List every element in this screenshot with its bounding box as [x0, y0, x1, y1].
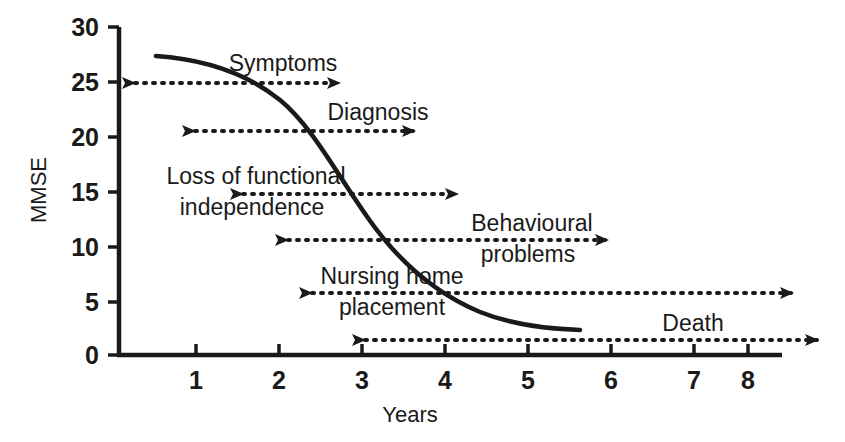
label-loss-of-functional-independence-line2: independence [180, 194, 325, 220]
x-tick-label-5: 5 [521, 366, 535, 394]
y-axis-tick-labels: 30 25 20 15 10 5 0 [71, 13, 99, 369]
x-tick-label-6: 6 [604, 366, 618, 394]
x-axis-tick-labels: 1 2 3 4 5 6 7 8 [189, 366, 755, 394]
label-death: Death [662, 310, 723, 336]
chart-figure: 30 25 20 15 10 5 0 MMSE 1 2 3 4 5 6 [0, 0, 845, 442]
label-nursing-home-placement-line1: Nursing home [320, 263, 463, 289]
y-tick-label-20: 20 [71, 123, 99, 151]
x-tick-label-8: 8 [741, 366, 755, 394]
x-tick-label-1: 1 [189, 366, 203, 394]
y-axis-title: MMSE [26, 157, 51, 223]
chart-svg: 30 25 20 15 10 5 0 MMSE 1 2 3 4 5 6 [0, 0, 845, 442]
y-tick-label-0: 0 [85, 341, 99, 369]
axis-lines [117, 27, 782, 357]
y-tick-label-10: 10 [71, 233, 99, 261]
y-tick-label-15: 15 [71, 178, 99, 206]
label-loss-of-functional-independence-line1: Loss of functional [166, 163, 345, 189]
label-nursing-home-placement-line2: placement [339, 294, 446, 320]
y-tick-label-30: 30 [71, 13, 99, 41]
y-tick-label-5: 5 [85, 288, 99, 316]
y-tick-label-25: 25 [71, 68, 99, 96]
x-tick-label-3: 3 [355, 366, 369, 394]
label-behavioural-problems-line2: problems [481, 241, 576, 267]
x-tick-label-4: 4 [438, 366, 452, 394]
label-diagnosis: Diagnosis [328, 99, 429, 125]
x-tick-label-2: 2 [272, 366, 286, 394]
label-symptoms: Symptoms [229, 50, 338, 76]
x-tick-label-7: 7 [687, 366, 701, 394]
x-axis-title: Years [382, 402, 437, 427]
label-behavioural-problems-line1: Behavioural [471, 210, 592, 236]
